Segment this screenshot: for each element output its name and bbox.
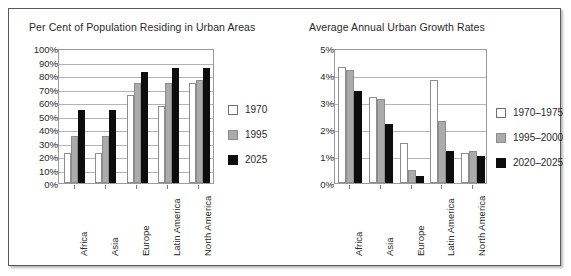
bar [95, 153, 102, 183]
bar [477, 156, 485, 183]
legend-swatch-icon [228, 130, 238, 140]
y-axis-tick-label: 4% [288, 71, 334, 82]
legend-label: 2020–2025 [513, 157, 563, 168]
chart-legend: 1970–19751995–20002020–2025 [496, 107, 563, 182]
bar [102, 136, 109, 183]
x-axis-category-label: Europe [140, 225, 151, 256]
bar [400, 143, 408, 184]
bar [430, 80, 438, 183]
plot-area [58, 49, 214, 184]
y-axis-tick-label: 2% [288, 125, 334, 136]
bar [416, 176, 424, 183]
bar [127, 95, 134, 183]
legend-label: 1995 [245, 129, 267, 140]
y-axis-tick-label: 20% [12, 152, 58, 163]
bar [346, 70, 354, 183]
legend-label: 2025 [245, 154, 267, 165]
bar [141, 72, 148, 183]
plot-area [334, 49, 487, 184]
x-axis-category-label: Africa [78, 232, 89, 256]
bar [172, 68, 179, 183]
bar [158, 106, 165, 183]
y-axis: 0%10%20%30%40%50%60%70%80%90%100% [9, 9, 58, 265]
x-axis-tick-mark [411, 185, 412, 189]
y-axis-tick-label: 10% [12, 165, 58, 176]
gridline [335, 77, 486, 78]
y-axis-tick-label: 0% [12, 179, 58, 190]
chart-panel-urban-growth-rates: Average Annual Urban Growth Rates 0%1%2%… [291, 9, 562, 265]
bar [377, 99, 385, 183]
bar [78, 110, 85, 183]
legend-swatch-icon [228, 155, 238, 165]
bar [354, 91, 362, 183]
bar [165, 83, 172, 183]
y-axis-tick-label: 40% [12, 125, 58, 136]
y-axis-tick-label: 0% [288, 179, 334, 190]
x-axis-tick-mark [380, 185, 381, 189]
x-axis-tick-mark [105, 185, 106, 189]
x-axis-category-label: Europe [415, 225, 426, 256]
figure-frame: Per Cent of Population Residing in Urban… [8, 8, 561, 266]
x-axis-tick-mark [441, 185, 442, 189]
legend-item: 1970–1975 [496, 107, 563, 118]
y-axis-tick-label: 5% [288, 44, 334, 55]
gridline [59, 64, 213, 65]
legend-item: 2020–2025 [496, 157, 563, 168]
y-axis-tick-mark [330, 184, 334, 185]
x-axis-category-label: North America [476, 196, 487, 256]
chart-panel-urban-population-share: Per Cent of Population Residing in Urban… [9, 9, 291, 265]
bar [385, 124, 393, 183]
y-axis-tick-mark [54, 184, 58, 185]
y-axis-tick-label: 60% [12, 98, 58, 109]
bar [446, 151, 454, 183]
y-axis-tick-label: 100% [12, 44, 58, 55]
bar [369, 97, 377, 183]
legend-item: 1970 [228, 104, 267, 115]
legend-swatch-icon [496, 158, 506, 168]
legend-item: 2025 [228, 154, 267, 165]
bar [408, 170, 416, 184]
bar [469, 151, 477, 183]
x-axis-tick-mark [74, 185, 75, 189]
x-axis-category-label: Asia [384, 238, 395, 256]
y-axis-tick-label: 90% [12, 57, 58, 68]
bar [438, 121, 446, 183]
x-axis-tick-mark [349, 185, 350, 189]
x-axis-tick-mark [472, 185, 473, 189]
legend-label: 1970–1975 [513, 107, 563, 118]
chart-legend: 197019952025 [228, 104, 267, 179]
x-axis-category-label: Asia [109, 238, 120, 256]
bar [134, 83, 141, 183]
x-axis-category-label: Latin America [445, 198, 456, 256]
x-axis-category-label: North America [202, 196, 213, 256]
bar [461, 153, 469, 183]
bar [109, 110, 116, 183]
chart-title: Per Cent of Population Residing in Urban… [29, 21, 255, 33]
bar [203, 68, 210, 183]
legend-swatch-icon [496, 133, 506, 143]
bar [189, 83, 196, 183]
y-axis-tick-label: 3% [288, 98, 334, 109]
x-axis-tick-mark [136, 185, 137, 189]
chart-title: Average Annual Urban Growth Rates [309, 21, 485, 33]
x-axis-category-label: Africa [353, 232, 364, 256]
bar [196, 80, 203, 183]
y-axis: 0%1%2%3%4%5% [291, 9, 334, 265]
bar [71, 136, 78, 183]
y-axis-tick-label: 1% [288, 152, 334, 163]
y-axis-tick-label: 80% [12, 71, 58, 82]
x-axis-category-label: Latin America [171, 198, 182, 256]
y-axis-tick-label: 50% [12, 111, 58, 122]
x-axis-tick-mark [198, 185, 199, 189]
legend-item: 1995–2000 [496, 132, 563, 143]
y-axis-tick-label: 70% [12, 84, 58, 95]
legend-label: 1970 [245, 104, 267, 115]
gridline [59, 77, 213, 78]
legend-swatch-icon [496, 108, 506, 118]
x-axis-tick-mark [167, 185, 168, 189]
bar [338, 67, 346, 183]
y-axis-tick-label: 30% [12, 138, 58, 149]
legend-label: 1995–2000 [513, 132, 563, 143]
bar [64, 153, 71, 183]
legend-swatch-icon [228, 105, 238, 115]
